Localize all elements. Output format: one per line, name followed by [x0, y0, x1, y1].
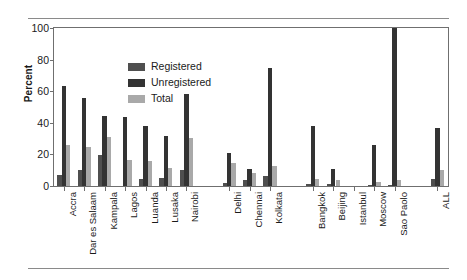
bar [272, 166, 276, 186]
bar-group [364, 28, 384, 186]
bar [189, 138, 193, 186]
bar [397, 180, 401, 186]
bar-group [54, 28, 74, 186]
bar-group [323, 28, 343, 186]
bar [376, 182, 380, 186]
bar [252, 173, 256, 186]
bar [311, 126, 315, 186]
bar-group [219, 28, 239, 186]
bar [168, 168, 172, 186]
bar-group [303, 28, 323, 186]
x-tick-label: Beijing [337, 192, 347, 270]
bar-group [136, 28, 156, 186]
x-tick-label: ALL [441, 192, 451, 270]
y-tick-label: 60 [18, 86, 49, 97]
x-tick-mark [437, 187, 438, 191]
bar-group [385, 28, 405, 186]
bar-group [260, 28, 280, 186]
x-tick-mark [270, 187, 271, 191]
bar-group [428, 28, 448, 186]
x-tick-label: Lagos [129, 192, 139, 270]
bar [392, 28, 396, 186]
x-tick-mark [105, 187, 106, 191]
y-tick-label: 20 [18, 149, 49, 160]
x-tick-label: Nairobi [190, 192, 200, 270]
x-tick-label: Chennai [254, 192, 264, 270]
x-tick-label: Bangkok [317, 192, 327, 270]
y-tick-label: 100 [18, 23, 49, 34]
x-tick-mark [125, 187, 126, 191]
bar-group [176, 28, 196, 186]
x-tick-label: Lusaka [170, 192, 180, 270]
x-tick-mark [186, 187, 187, 191]
bar-group [156, 28, 176, 186]
x-tick-label: Accra [68, 192, 78, 270]
bar-group [95, 28, 115, 186]
bar [107, 137, 111, 186]
bar [231, 163, 235, 186]
bar [372, 145, 376, 186]
bar [315, 179, 319, 186]
x-tick-mark [64, 187, 65, 191]
x-tick-mark [395, 187, 396, 191]
bar [86, 147, 90, 187]
x-tick-label: Dar es Salaam [88, 192, 98, 270]
x-tick-label: Istanbul [358, 192, 368, 270]
top-rule [28, 18, 449, 19]
bar-group [115, 28, 135, 186]
x-tick-label: Luanda [150, 192, 160, 270]
x-tick-mark [354, 187, 355, 191]
bar [148, 161, 152, 186]
y-tick-label: 40 [18, 118, 49, 129]
bar [336, 180, 340, 186]
x-tick-label: Moscow [378, 192, 388, 270]
x-tick-mark [333, 187, 334, 191]
bar [440, 170, 444, 186]
x-tick-mark [84, 187, 85, 191]
x-tick-label: Kolkata [274, 192, 284, 270]
figure: Percent 020406080100 RegisteredUnregiste… [0, 0, 467, 280]
x-tick-mark [250, 187, 251, 191]
bar-series-layer [54, 28, 448, 186]
y-tick-label: 0 [18, 181, 49, 192]
bar [127, 160, 131, 186]
x-tick-mark [229, 187, 230, 191]
bar-group [344, 28, 364, 186]
y-tick-label: 80 [18, 54, 49, 65]
x-tick-label: Delhi [233, 192, 243, 270]
x-tick-mark [166, 187, 167, 191]
x-tick-label: Kampala [109, 192, 119, 270]
bar-group [74, 28, 94, 186]
bar-group [240, 28, 260, 186]
x-tick-mark [374, 187, 375, 191]
bar [66, 145, 70, 186]
x-tick-mark [313, 187, 314, 191]
x-tick-mark [146, 187, 147, 191]
x-tick-label: Sao Paolo [399, 192, 409, 270]
